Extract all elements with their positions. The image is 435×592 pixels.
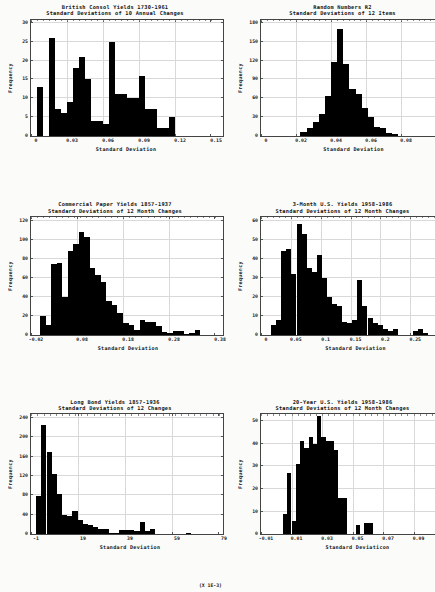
tick-mark: [31, 60, 33, 61]
gridline-horizontal: [31, 78, 223, 79]
minor-tick-mark: [386, 217, 387, 219]
gridline-horizontal: [31, 239, 223, 240]
minor-tick-mark: [68, 217, 69, 219]
gridline-vertical: [123, 217, 124, 335]
tick-mark: [261, 22, 263, 23]
tick-mark: [261, 532, 262, 534]
y-tick-label: 40: [252, 255, 258, 260]
minor-tick-mark: [360, 20, 361, 22]
tick-mark: [31, 22, 33, 23]
minor-tick-mark: [85, 20, 86, 22]
minor-tick-mark: [395, 414, 396, 416]
minor-tick-mark: [422, 217, 423, 219]
histogram-bar: [150, 529, 155, 534]
x-axis-ticks: -119395979: [36, 535, 224, 544]
tick-mark: [221, 277, 223, 278]
gridline-vertical: [414, 414, 415, 534]
x-tick-label: 0.04: [330, 138, 342, 143]
gridline-horizontal: [31, 220, 223, 221]
chart-title-block: Long Bond Yields 1857-1936Standard Devia…: [6, 399, 224, 412]
x-tick-label: 39: [127, 536, 133, 541]
minor-tick-mark: [398, 217, 399, 219]
minor-tick-mark: [97, 20, 98, 22]
y-tick-label: 0: [255, 331, 258, 336]
chart-panel: Commercial Paper Yields 1857-1937Standar…: [0, 197, 230, 394]
minor-tick-mark: [125, 414, 126, 416]
minor-tick-mark: [297, 217, 298, 219]
gridline-horizontal: [261, 465, 435, 466]
minor-tick-mark: [302, 20, 303, 22]
x-tick-label: 0.2: [381, 337, 390, 342]
y-tick-label: 30: [252, 113, 258, 118]
tick-mark: [261, 97, 263, 98]
minor-tick-mark: [203, 217, 204, 219]
minor-tick-mark: [389, 414, 390, 416]
minor-tick-mark: [374, 217, 375, 219]
tick-mark: [221, 417, 223, 418]
tick-mark: [31, 296, 33, 297]
minor-tick-mark: [309, 217, 310, 219]
x-axis-ticks: -0.010.010.030.050.070.090.11: [266, 535, 435, 544]
x-axis-ticks: -0.020.080.180.280.38: [36, 336, 220, 345]
tick-mark: [221, 41, 223, 42]
y-tick-label: 25: [22, 38, 28, 43]
minor-tick-mark: [339, 217, 340, 219]
axes-box: [30, 216, 224, 336]
minor-tick-mark: [178, 217, 179, 219]
x-tick-label: 59: [174, 536, 180, 541]
tick-mark: [410, 333, 411, 335]
chart-title-block: Random Numbers R2Standard Deviations of …: [236, 4, 435, 17]
x-axis-label: Standard Deviation: [36, 544, 224, 550]
minor-tick-mark: [106, 414, 107, 416]
minor-tick-mark: [395, 20, 396, 22]
minor-tick-mark: [181, 20, 182, 22]
x-tick-label: 0: [35, 138, 38, 143]
tick-mark: [221, 220, 223, 221]
minor-tick-mark: [49, 20, 50, 22]
minor-tick-mark: [199, 20, 200, 22]
x-tick-label: 0.09: [138, 138, 150, 143]
minor-tick-mark: [273, 20, 274, 22]
x-axis-label: Standard Deviation: [266, 345, 435, 351]
tick-mark: [221, 436, 223, 437]
minor-tick-mark: [319, 20, 320, 22]
minor-tick-mark: [121, 20, 122, 22]
plot-area: Frequency04080120160200240: [6, 413, 224, 535]
chart-panel: 20-Year U.S. Yields 1958-1986Standard De…: [230, 395, 435, 592]
minor-tick-mark: [285, 217, 286, 219]
minor-tick-mark: [378, 20, 379, 22]
minor-tick-mark: [139, 20, 140, 22]
x-tick-label: 0.07: [382, 536, 394, 541]
minor-tick-mark: [308, 20, 309, 22]
minor-tick-mark: [346, 414, 347, 416]
minor-tick-mark: [188, 414, 189, 416]
minor-tick-mark: [359, 414, 360, 416]
tick-mark: [31, 41, 33, 42]
minor-tick-mark: [321, 217, 322, 219]
tick-mark: [261, 78, 263, 79]
tick-mark: [383, 532, 384, 534]
minor-tick-mark: [43, 217, 44, 219]
y-tick-label: 240: [19, 415, 28, 420]
y-axis-ticks: 01020304050: [244, 413, 260, 533]
tick-mark: [221, 475, 223, 476]
chart-panel: Random Numbers R2Standard Deviations of …: [230, 0, 435, 197]
minor-tick-mark: [81, 414, 82, 416]
tick-mark: [31, 239, 33, 240]
y-axis-label: Frequency: [236, 19, 244, 137]
chart-title-block: British Consol Yields 1730-1961Standard …: [6, 4, 224, 17]
minor-tick-mark: [129, 217, 130, 219]
minor-tick-mark: [86, 217, 87, 219]
axes-box: [260, 19, 435, 137]
y-tick-label: 10: [252, 508, 258, 513]
y-tick-label: 10: [252, 312, 258, 317]
tick-mark: [31, 475, 33, 476]
minor-tick-mark: [315, 217, 316, 219]
minor-tick-mark: [327, 217, 328, 219]
y-tick-label: 80: [22, 255, 28, 260]
tick-mark: [31, 134, 32, 136]
chart-grid: British Consol Yields 1730-1961Standard …: [0, 0, 435, 592]
tick-mark: [172, 414, 173, 416]
minor-tick-mark: [389, 20, 390, 22]
minor-tick-mark: [74, 217, 75, 219]
